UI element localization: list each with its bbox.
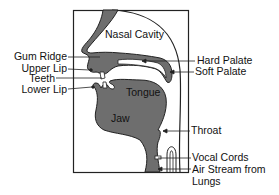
label-gum-ridge: Gum Ridge <box>14 51 67 62</box>
nasal-cavity-label: Nasal Cavity <box>105 28 164 40</box>
lower-tooth <box>103 82 107 88</box>
label-throat: Throat <box>191 125 221 136</box>
label-soft-palate: Soft Palate <box>195 66 246 77</box>
label-vocal-cords: Vocal Cords <box>192 152 249 163</box>
label-air-stream: Air Stream from <box>192 164 266 175</box>
jaw-label: Jaw <box>111 112 130 124</box>
label-air-stream-line2: Lungs <box>192 176 221 187</box>
label-lower-lip: Lower Lip <box>21 84 67 95</box>
tongue-label: Tongue <box>126 86 160 98</box>
vocal-cords-shape <box>155 156 161 159</box>
